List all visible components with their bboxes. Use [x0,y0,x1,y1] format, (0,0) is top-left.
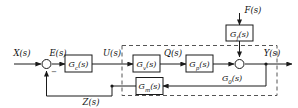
block-diagram-figure: Gc(s) Gv(s) Gp(s) Gm(s) Gf(s) G0(s) X(s)… [0,0,298,108]
summing-junction-disturbance [235,60,244,69]
signal-error-label: E(s) [48,48,66,58]
subsystem-label: G0(s) [222,74,242,85]
feedback-corner-node [110,84,113,87]
signal-output-label: Y(s) [264,48,281,58]
summing-negative-sign: − [51,68,57,76]
signal-input-label: X(s) [12,48,30,58]
signal-intermediate-label: Q(s) [164,48,182,58]
signal-feedback-label: Z(s) [82,97,100,107]
output-tap-node [264,62,267,65]
signal-control-label: U(s) [103,48,121,58]
signal-disturbance-label: F(s) [244,5,262,15]
summing-junction-error [42,60,51,69]
diagram-canvas: Gc(s) Gv(s) Gp(s) Gm(s) Gf(s) G0(s) X(s)… [0,0,298,108]
